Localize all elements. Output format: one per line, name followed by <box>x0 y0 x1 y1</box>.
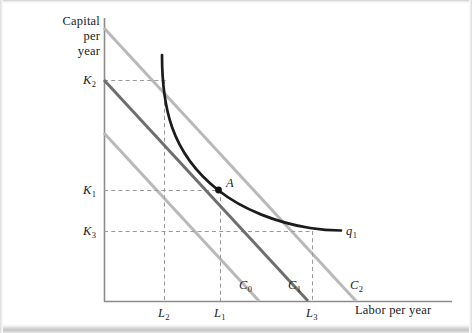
y-tick-k2-sub: 2 <box>92 79 96 89</box>
isoquant-curve-q1 <box>162 55 341 231</box>
isocost-c2-sub: 2 <box>359 284 363 294</box>
y-tick-k3-base: K <box>83 224 91 238</box>
isocost-label-c1: C1 <box>288 278 301 293</box>
isocost-label-c2: C2 <box>350 278 363 293</box>
x-tick-l2-sub: 2 <box>165 312 169 322</box>
isoquant-q1-base: q <box>346 224 352 238</box>
y-tick-k1-base: K <box>83 183 91 197</box>
y-tick-label-k1: K1 <box>83 183 96 198</box>
isoquant-label-q1: q1 <box>346 224 357 239</box>
tangency-point-a <box>215 187 222 194</box>
y-tick-label-k2: K2 <box>83 73 96 88</box>
isocost-line-c2 <box>104 28 356 301</box>
x-tick-label-l1: L1 <box>214 306 225 321</box>
y-tick-k1-sub: 1 <box>92 189 96 199</box>
isocost-c2-base: C <box>350 278 358 292</box>
figure-frame: Capital per year Labor per year K2 K1 K3… <box>0 0 472 333</box>
y-axis-title-line-3: year <box>22 44 100 59</box>
isocost-line-c0 <box>104 133 259 301</box>
y-axis-title: Capital per year <box>22 14 100 59</box>
isoquant-q1-sub: 1 <box>353 230 357 240</box>
x-tick-l2-base: L <box>158 306 165 320</box>
x-tick-l3-sub: 3 <box>313 312 317 322</box>
y-axis-title-line-2: per <box>22 29 100 44</box>
x-tick-l1-base: L <box>214 306 221 320</box>
x-tick-l1-sub: 1 <box>221 312 225 322</box>
isocost-c0-base: C <box>239 278 247 292</box>
x-tick-l3-base: L <box>306 306 313 320</box>
y-tick-k2-base: K <box>83 73 91 87</box>
x-axis-title: Labor per year <box>355 303 431 318</box>
x-tick-label-l2: L2 <box>158 306 169 321</box>
isocost-c1-sub: 1 <box>297 284 301 294</box>
isocost-c0-sub: 0 <box>248 284 252 294</box>
isocost-label-c0: C0 <box>239 278 252 293</box>
y-axis-title-line-1: Capital <box>22 14 100 29</box>
x-tick-label-l3: L3 <box>306 306 317 321</box>
point-label-a: A <box>226 176 234 191</box>
y-tick-k3-sub: 3 <box>92 230 96 240</box>
isocost-c1-base: C <box>288 278 296 292</box>
y-tick-label-k3: K3 <box>83 224 96 239</box>
